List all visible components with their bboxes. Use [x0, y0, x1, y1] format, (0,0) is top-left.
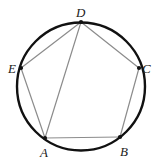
- vertex-label-a: A: [40, 146, 48, 159]
- geometry-figure: ABCDE: [0, 0, 162, 166]
- vertex-dot-e: [19, 66, 23, 70]
- vertex-label-e: E: [8, 62, 16, 75]
- circumscribed-circle: [17, 23, 145, 151]
- vertex-dot-d: [79, 20, 83, 24]
- vertex-label-b: B: [120, 145, 128, 158]
- chord-A-B: [45, 137, 120, 138]
- geometry-canvas: [0, 0, 162, 166]
- vertex-dot-a: [43, 136, 47, 140]
- vertex-dot-b: [118, 135, 122, 139]
- chord-D-A: [45, 22, 81, 138]
- circle-layer: [17, 23, 145, 151]
- vertex-label-c: C: [142, 62, 151, 75]
- vertex-label-d: D: [76, 6, 85, 19]
- vertex-dot-c: [137, 66, 141, 70]
